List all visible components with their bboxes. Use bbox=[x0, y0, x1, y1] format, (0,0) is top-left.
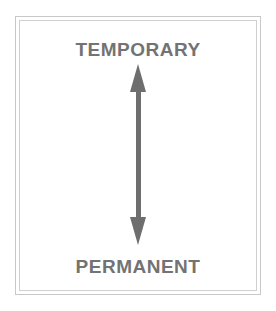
bottom-label: PERMANENT bbox=[0, 256, 276, 278]
